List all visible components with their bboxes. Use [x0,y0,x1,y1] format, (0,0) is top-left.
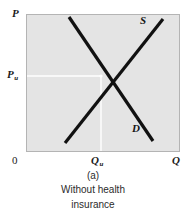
y-axis-label: P [12,8,19,19]
quantity-tick-subscript: u [99,160,103,168]
quantity-tick-base: Q [91,154,99,166]
price-equilibrium-tick-label: Pu [7,69,18,80]
origin-label: 0 [12,155,18,166]
plot-canvas [27,15,180,152]
caption-line-1: Without health [0,184,186,196]
panel-label: (a) [0,170,186,182]
supply-demand-figure: P Pu S D 0 Qu Q (a) Without health insur… [0,0,186,217]
x-axis-label: Q [172,155,180,166]
demand-curve-label: D [132,123,140,134]
plot-area: S D [26,14,180,152]
quantity-equilibrium-tick-label: Qu [91,155,103,166]
price-tick-subscript: u [14,74,18,82]
supply-curve-label: S [140,15,146,26]
price-tick-base: P [7,68,14,80]
equilibrium-point [99,74,102,77]
caption-line-2: insurance [0,199,186,211]
